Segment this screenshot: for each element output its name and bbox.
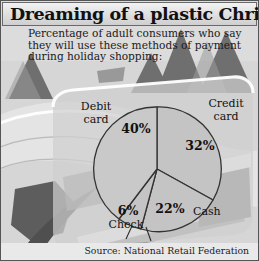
panel-border: [0, 0, 259, 261]
infographic-panel: Dreaming of a plastic Christmas Percenta…: [0, 0, 259, 261]
